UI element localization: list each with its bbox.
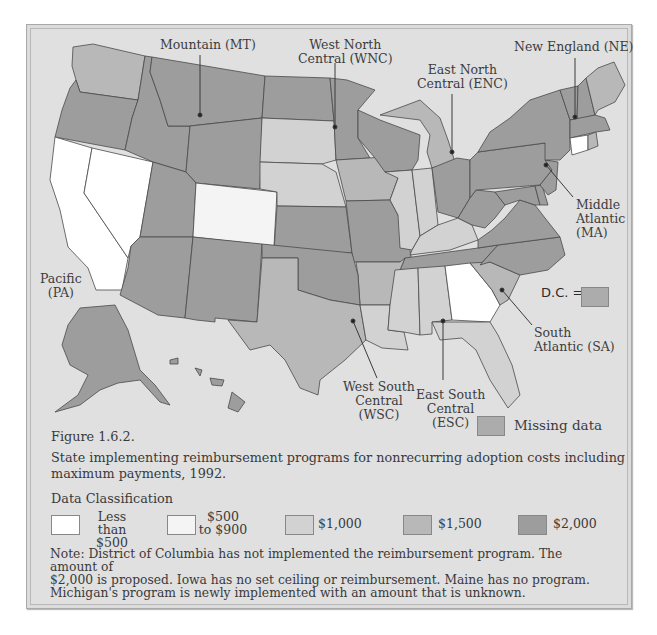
legend-label-1500: $1,500 — [438, 517, 482, 530]
legend-swatch-1000 — [285, 515, 314, 535]
state-az — [120, 237, 193, 318]
state-sd — [260, 118, 336, 164]
state-ct — [570, 135, 588, 155]
state-ri — [588, 132, 598, 150]
label-ma: MiddleAtlantic(MA) — [576, 198, 625, 240]
dc-swatch — [581, 287, 609, 307]
missing-data-label: Missing data — [514, 418, 602, 432]
legend-label-less-500: Lessthan $500 — [82, 510, 142, 549]
figure-number: Figure 1.6.2. — [51, 429, 135, 445]
label-pacific: Pacific(PA) — [40, 272, 82, 300]
legend-title: Data Classification — [51, 491, 173, 507]
dc-label: D.C. = — [541, 285, 583, 300]
caption-line-1: State implementing reimbursement program… — [51, 450, 625, 466]
state-hi — [170, 358, 245, 412]
pointer-sa — [502, 290, 532, 325]
legend-label-2000: $2,000 — [553, 517, 597, 530]
label-sa: SouthAtlantic (SA) — [534, 326, 615, 354]
state-wy — [186, 118, 262, 189]
legend-swatch-1500 — [403, 515, 432, 535]
legend-label-1000: $1,000 — [318, 517, 362, 530]
label-enc: East NorthCentral (ENC) — [417, 63, 508, 91]
legend-swatch-less-500 — [51, 515, 80, 535]
state-nd — [262, 76, 334, 121]
legend-label-500-900: $500to $900 — [196, 510, 250, 536]
state-mt — [150, 57, 265, 126]
state-ak — [55, 305, 170, 412]
state-nm — [185, 237, 262, 322]
legend-swatch-2000 — [518, 515, 547, 535]
state-ks — [274, 206, 352, 253]
label-wsc: West SouthCentral(WSC) — [343, 380, 415, 422]
state-wa — [72, 44, 145, 100]
label-esc: East SouthCentral(ESC) — [416, 388, 485, 430]
label-mountain: Mountain (MT) — [160, 38, 256, 52]
label-ne: New England (NE) — [514, 40, 633, 54]
figure-note: Note: District of Columbia has not imple… — [50, 548, 610, 600]
label-wnc: West NorthCentral (WNC) — [298, 38, 393, 66]
missing-data-swatch — [477, 416, 505, 436]
caption-line-2: maximum payments, 1992. — [51, 466, 226, 482]
legend-swatch-500-900 — [167, 515, 196, 535]
state-co — [193, 183, 277, 246]
